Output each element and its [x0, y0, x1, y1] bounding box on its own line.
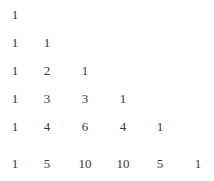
cell-value: 1: [188, 156, 208, 172]
pascals-triangle: 1 1 1 1 2 1 1 3 3 1 1 4 6 4 1 1 5 10 10 …: [0, 0, 214, 181]
cell-value: 1: [5, 156, 25, 172]
cell-value: 5: [150, 156, 170, 172]
cell-value: 6: [75, 119, 95, 135]
cell-value: 1: [37, 35, 57, 51]
cell-value: 2: [37, 63, 57, 79]
cell-value: 4: [37, 119, 57, 135]
cell-value: 5: [37, 156, 57, 172]
cell-value: 1: [5, 35, 25, 51]
cell-value: 3: [37, 91, 57, 107]
table-row: 1: [0, 7, 214, 23]
cell-value: 3: [75, 91, 95, 107]
cell-value: 1: [5, 63, 25, 79]
table-row: 1 1: [0, 35, 214, 51]
cell-value: 4: [113, 119, 133, 135]
table-row: 1 4 6 4 1: [0, 119, 214, 135]
table-row: 1 3 3 1: [0, 91, 214, 107]
table-row: 1 2 1: [0, 63, 214, 79]
cell-value: 10: [113, 156, 133, 172]
cell-value: 1: [5, 119, 25, 135]
cell-value: 1: [113, 91, 133, 107]
cell-value: 1: [75, 63, 95, 79]
cell-value: 10: [75, 156, 95, 172]
cell-value: 1: [5, 7, 25, 23]
cell-value: 1: [150, 119, 170, 135]
table-row: 1 5 10 10 5 1: [0, 156, 214, 172]
cell-value: 1: [5, 91, 25, 107]
